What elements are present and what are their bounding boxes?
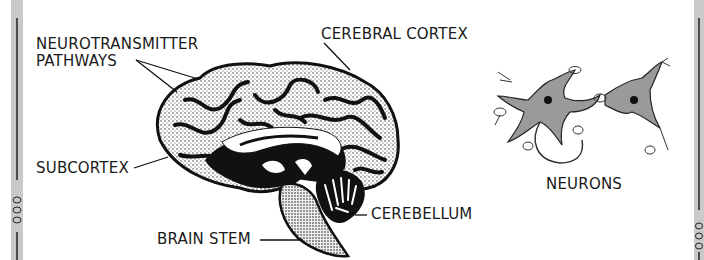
label-subcortex: SUBCORTEX — [36, 160, 129, 177]
neurons-icon — [494, 58, 670, 163]
left-border-ornament — [13, 18, 21, 260]
brain-diagram: NEUROTRANSMITTER PATHWAYS CEREBRAL CORTE… — [0, 0, 704, 260]
label-brain-stem: BRAIN STEM — [157, 231, 251, 248]
label-cerebral-cortex: CEREBRAL CORTEX — [321, 26, 468, 43]
label-cerebellum: CEREBELLUM — [371, 206, 473, 223]
right-border-ornament — [696, 18, 703, 260]
label-line-2: PATHWAYS — [36, 53, 198, 70]
label-neurotransmitter-pathways: NEUROTRANSMITTER PATHWAYS — [36, 36, 198, 70]
label-line-1: NEUROTRANSMITTER — [36, 36, 198, 53]
brain-icon — [157, 63, 398, 256]
label-neurons: NEURONS — [546, 176, 622, 193]
